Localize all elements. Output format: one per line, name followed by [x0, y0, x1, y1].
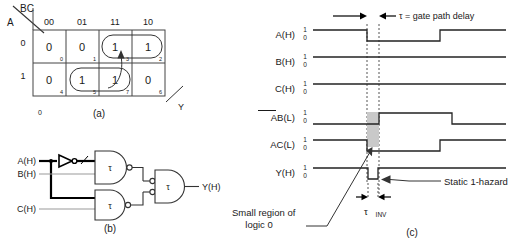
level-low-a: 0 [303, 34, 307, 41]
small-region-line-1: Small region of [232, 207, 296, 218]
output-gate-label: τ [166, 182, 170, 192]
tauinv-arrow-left-head [362, 194, 369, 200]
hazard-annotation: Static 1-hazard [444, 176, 508, 187]
level-low-abbar: 0 [303, 117, 307, 124]
level-low-ac: 0 [303, 144, 307, 151]
nand-gate-1-bubble-icon [127, 165, 132, 170]
kmap-col-header-2: 11 [110, 17, 119, 27]
kmap-bc-label: BC [20, 3, 34, 14]
figure-svg: BC A 00 01 11 10 0 1 0 0 1 1 0 1 1 0 0 1 [0, 0, 511, 246]
kmap-cell-index-2: 3 [126, 56, 129, 62]
kmap-row-header-0: 0 [20, 38, 25, 48]
hazard-arrowhead [381, 175, 391, 183]
kmap-cell-value-1: 0 [79, 41, 85, 53]
timing-hazard-shade [367, 112, 379, 147]
kmap-cell-index-5: 5 [93, 89, 96, 95]
tauinv-arrow-right-head [378, 194, 385, 200]
level-high-ac: 1 [303, 136, 307, 143]
nand-gate-2-label: τ [108, 201, 112, 211]
timing-label-b: B(H) [275, 56, 295, 67]
level-low-y: 0 [303, 172, 307, 179]
kmap-row-header-1: 1 [20, 71, 25, 81]
kmap-a-label: A [7, 17, 14, 28]
kmap-cell-value-0: 0 [46, 41, 52, 53]
circuit-input-label-c: C(H) [17, 204, 36, 214]
output-gate-bubble-2-icon [150, 189, 155, 194]
timing-label-abbar: AB(L) [271, 112, 295, 123]
tauinv-label-sub: INV [376, 211, 388, 218]
kmap-cell-value-4: 0 [46, 74, 52, 86]
timing-label-a: A(H) [275, 29, 295, 40]
kmap-output-label: Y [178, 102, 184, 112]
circuit-wire-g2-out [131, 192, 143, 205]
kmap-cell-value-7: 0 [145, 74, 151, 86]
level-high-c: 1 [303, 80, 307, 87]
kmap-hazard-arrowhead [117, 50, 124, 59]
kmap-cell-value-3: 1 [145, 41, 151, 53]
level-low-c: 0 [303, 88, 307, 95]
nand-gate-1-label: τ [108, 163, 112, 173]
kmap-cell-index-0: 0 [60, 56, 63, 62]
kmap-cell-value-2: 1 [112, 41, 118, 53]
waveform-abbar [313, 113, 506, 124]
circuit-input-label-a: A(H) [18, 156, 37, 166]
nand-gate-2-bubble-icon [125, 202, 130, 207]
kmap-col-header-0: 00 [44, 17, 54, 27]
output-gate-bubble-1-icon [150, 178, 155, 183]
kmap-cell-index-1: 1 [93, 56, 96, 62]
small-region-line-2: logic 0 [245, 219, 272, 230]
tau-delay-note: τ = gate path delay [399, 11, 475, 21]
kmap-panel: BC A 00 01 11 10 0 1 0 0 1 1 0 1 1 0 0 1 [7, 3, 184, 119]
kmap-stray-zero: 0 [38, 109, 42, 116]
panel-label-c: (c) [406, 227, 418, 238]
kmap-col-header-3: 10 [143, 17, 153, 27]
kmap-cell-value-5: 1 [79, 74, 85, 86]
level-high-a: 1 [303, 26, 307, 33]
panel-label-a: (a) [93, 108, 105, 119]
level-high-y: 1 [303, 164, 307, 171]
circuit-output-label: Y(H) [202, 182, 221, 192]
kmap-cell-index-4: 4 [60, 89, 63, 95]
waveform-a [313, 30, 506, 41]
kmap-cell-index-7: 6 [159, 89, 162, 95]
tau-arrow-left-head [360, 13, 367, 20]
level-high-abbar: 1 [303, 109, 307, 116]
timing-level-markers: 1 0 1 0 1 0 1 0 1 0 1 0 [303, 26, 307, 179]
timing-label-c: C(H) [275, 83, 295, 94]
kmap-output-slash [166, 86, 183, 102]
tauinv-label: τ [364, 206, 368, 217]
timing-label-ac: AC(L) [270, 139, 295, 150]
panel-label-b: (b) [104, 223, 116, 234]
inverter-icon [59, 155, 72, 167]
timing-panel: τ = gate path delay A(H) B(H) C(H) AB(L)… [232, 11, 508, 238]
level-high-b: 1 [303, 53, 307, 60]
level-low-b: 0 [303, 61, 307, 68]
timing-label-y: Y(H) [275, 167, 295, 178]
kmap-cell-index-3: 2 [159, 56, 162, 62]
circuit-wire-g1-out [132, 168, 143, 182]
hazard-leader-2 [390, 180, 409, 182]
inverter-bubble-icon [72, 159, 77, 164]
kmap-col-header-1: 01 [77, 17, 87, 27]
circuit-wire-a-branch [51, 161, 95, 198]
circuit-panel: A(H) B(H) C(H) τ τ τ [17, 151, 221, 234]
tau-arrow-right-head [379, 13, 386, 20]
waveform-ac [313, 140, 506, 151]
kmap-cell-index-6: 7 [126, 89, 129, 95]
figure-root: BC A 00 01 11 10 0 1 0 0 1 1 0 1 1 0 0 1 [0, 0, 511, 246]
circuit-input-label-b: B(H) [18, 169, 37, 179]
